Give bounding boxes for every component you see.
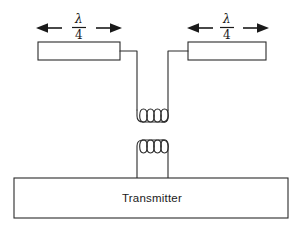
right-lambda-numerator: λ (223, 13, 231, 25)
right-feed-wire (168, 51, 188, 110)
left-lambda-numerator: λ (75, 13, 83, 25)
transmitter-label: Transmitter (0, 192, 304, 204)
transmitter-coil-right-leg (162, 140, 168, 178)
antenna-diagram: λ 4 λ 4 Transmitter (0, 0, 304, 229)
right-arrow-right-head-icon (257, 23, 269, 33)
left-arrow-right-head-icon (110, 23, 122, 33)
left-arrow-left-head-icon (36, 23, 48, 33)
left-lambda-denominator: 4 (75, 29, 83, 41)
antenna-link-coil (137, 109, 168, 122)
right-arrow-left-head-icon (187, 23, 199, 33)
left-feed-wire (120, 51, 137, 110)
left-radiator-element (38, 42, 120, 60)
right-radiator-element (188, 42, 266, 60)
right-lambda-denominator: 4 (223, 29, 231, 41)
antenna-coil-right-bend (162, 110, 168, 122)
transmitter-link-coil (137, 140, 168, 178)
